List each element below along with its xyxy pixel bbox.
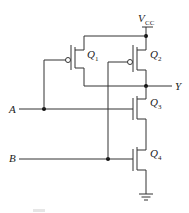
output-label: Y xyxy=(175,80,183,92)
transistor-q3-nmos: Q 3 xyxy=(133,86,162,150)
transistor-q1-pmos: Q 1 xyxy=(44,36,99,86)
svg-text:Q: Q xyxy=(150,96,158,108)
svg-text:2: 2 xyxy=(158,55,162,63)
transistor-q2-pmos: Q 2 xyxy=(108,45,162,86)
svg-text:3: 3 xyxy=(158,103,162,111)
vcc-label: V CC xyxy=(138,12,155,27)
svg-text:CC: CC xyxy=(145,19,155,27)
input-b-label: B xyxy=(9,152,16,164)
cmos-nand-schematic: V CC Q 1 Q 2 Y xyxy=(0,0,189,213)
q2-gate-bubble xyxy=(128,60,133,65)
svg-text:Q: Q xyxy=(87,48,95,60)
caption-fragment xyxy=(33,209,45,212)
svg-text:4: 4 xyxy=(158,154,162,162)
ground-icon xyxy=(139,194,153,200)
q1-gate-bubble xyxy=(66,58,71,63)
svg-text:Q: Q xyxy=(150,147,158,159)
transistor-q4-nmos: Q 4 xyxy=(133,147,162,194)
svg-text:Q: Q xyxy=(150,48,158,60)
input-a-label: A xyxy=(8,103,16,115)
svg-text:1: 1 xyxy=(95,55,99,63)
